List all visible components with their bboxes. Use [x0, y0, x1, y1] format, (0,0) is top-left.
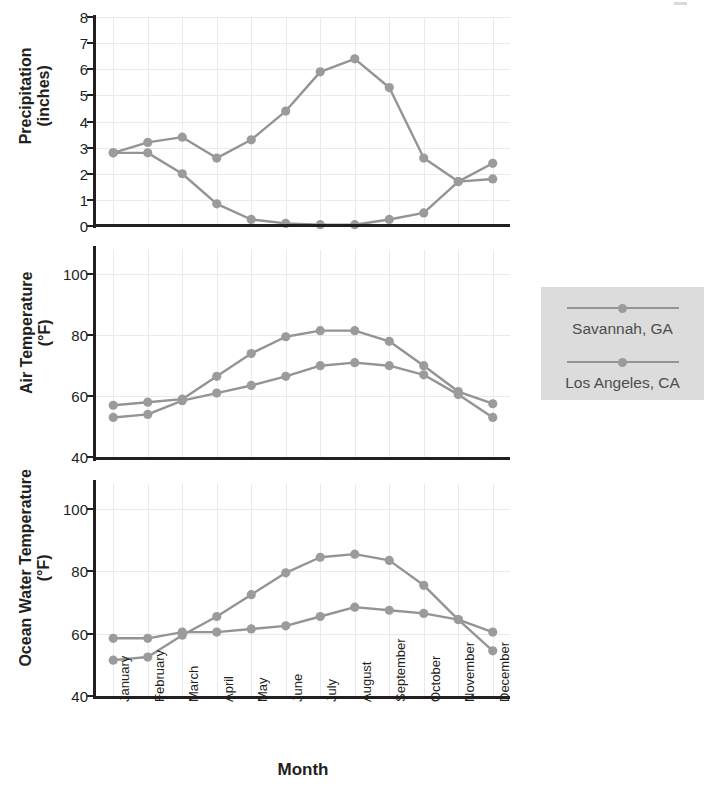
- y-tick-mark: [87, 147, 93, 149]
- data-point-marker: [350, 358, 359, 367]
- precipitation-series-layer: [96, 17, 510, 226]
- data-point-marker: [143, 634, 152, 643]
- y-tick-mark: [87, 633, 93, 635]
- data-point-marker: [454, 390, 463, 399]
- data-point-marker: [385, 556, 394, 565]
- y-tick-mark: [87, 199, 93, 201]
- series-line-savannah: [113, 331, 493, 406]
- series-line-los-angeles: [113, 607, 493, 638]
- y-tick-label: 80: [71, 564, 88, 579]
- data-point-marker: [178, 627, 187, 636]
- data-point-marker: [488, 646, 497, 655]
- data-point-marker: [419, 609, 428, 618]
- data-point-marker: [143, 148, 152, 157]
- y-tick-mark: [87, 334, 93, 336]
- data-point-marker: [419, 208, 428, 217]
- air-temperature-series-layer: [96, 250, 510, 457]
- data-point-marker: [212, 372, 221, 381]
- y-tick-mark: [87, 273, 93, 275]
- chart-canvas: Precipitation (inches) 012345678 Air Tem…: [0, 0, 713, 789]
- data-point-marker: [212, 627, 221, 636]
- data-point-marker: [454, 177, 463, 186]
- series-line-savannah: [113, 554, 493, 660]
- legend-marker-savannah-icon: [541, 301, 704, 315]
- y-tick-label: 80: [71, 328, 88, 343]
- data-point-marker: [385, 606, 394, 615]
- y-tick-mark: [87, 16, 93, 18]
- y-tick-label: 40: [71, 450, 88, 465]
- data-point-marker: [281, 332, 290, 341]
- data-point-marker: [212, 153, 221, 162]
- x-tick-label-november: November: [463, 642, 476, 702]
- y-tick-label: 60: [71, 389, 88, 404]
- ocean-water-temperature-axis-title-line1: Ocean Water Temperature: [17, 413, 35, 723]
- air-temperature-axis-title: Air Temperature (°F): [18, 225, 54, 440]
- precipitation-plot-area: [96, 17, 510, 226]
- ocean-water-temperature-y-axis-line: [93, 480, 96, 699]
- precipitation-axis-title: Precipitation (inches): [17, 6, 53, 186]
- legend-entry-savannah[interactable]: Savannah, GA: [541, 301, 704, 337]
- x-tick-label-april: April: [222, 676, 235, 702]
- data-point-marker: [385, 337, 394, 346]
- data-point-marker: [281, 568, 290, 577]
- data-point-marker: [109, 148, 118, 157]
- air-temperature-plot-area: [96, 250, 510, 457]
- x-tick-label-january: January: [118, 656, 131, 702]
- data-point-marker: [385, 361, 394, 370]
- data-point-marker: [143, 410, 152, 419]
- data-point-marker: [143, 398, 152, 407]
- air-temperature-axis-title-line1: Air Temperature: [18, 225, 36, 440]
- data-point-marker: [247, 349, 256, 358]
- y-tick-label: 100: [63, 501, 88, 516]
- data-point-marker: [385, 83, 394, 92]
- legend-label-savannah: Savannah, GA: [541, 320, 704, 337]
- data-point-marker: [419, 361, 428, 370]
- legend-marker-los-angeles-icon: [541, 355, 704, 369]
- cropped-artifact: [674, 2, 687, 5]
- data-point-marker: [281, 372, 290, 381]
- data-point-marker: [350, 326, 359, 335]
- y-tick-mark: [87, 94, 93, 96]
- y-tick-mark: [87, 68, 93, 70]
- x-axis-title: Month: [96, 760, 510, 780]
- data-point-marker: [109, 413, 118, 422]
- data-point-marker: [316, 67, 325, 76]
- x-tick-label-february: February: [153, 650, 166, 702]
- data-point-marker: [109, 634, 118, 643]
- data-point-marker: [212, 199, 221, 208]
- data-point-marker: [178, 133, 187, 142]
- x-tick-label-december: December: [498, 642, 511, 702]
- data-point-marker: [488, 413, 497, 422]
- data-point-marker: [419, 370, 428, 379]
- y-tick-mark: [87, 570, 93, 572]
- data-point-marker: [350, 603, 359, 612]
- data-point-marker: [316, 326, 325, 335]
- legend-entry-los-angeles[interactable]: Los Angeles, CA: [541, 355, 704, 391]
- data-point-marker: [488, 174, 497, 183]
- data-point-marker: [247, 215, 256, 224]
- x-tick-label-july: July: [325, 679, 338, 702]
- data-point-marker: [350, 550, 359, 559]
- air-temperature-y-axis-line: [93, 246, 96, 461]
- x-tick-label-march: March: [187, 666, 200, 702]
- x-tick-label-may: May: [256, 677, 269, 702]
- y-tick-mark: [87, 395, 93, 397]
- ocean-water-temperature-axis-title: Ocean Water Temperature (°F): [17, 413, 53, 723]
- data-point-marker: [247, 624, 256, 633]
- data-point-marker: [247, 135, 256, 144]
- panel-precipitation: Precipitation (inches) 012345678: [0, 0, 540, 236]
- y-tick-label: 100: [63, 267, 88, 282]
- data-point-marker: [350, 54, 359, 63]
- panel-ocean-water-temperature: Ocean Water Temperature (°F) 406080100: [0, 470, 540, 710]
- y-tick-mark: [87, 225, 93, 227]
- data-point-marker: [419, 581, 428, 590]
- series-line-los-angeles: [113, 363, 493, 418]
- series-line-los-angeles: [113, 153, 493, 225]
- data-point-marker: [281, 106, 290, 115]
- data-point-marker: [143, 652, 152, 661]
- data-point-marker: [454, 615, 463, 624]
- y-tick-mark: [87, 695, 93, 697]
- precipitation-y-axis-line: [93, 15, 96, 228]
- air-temperature-x-axis-line: [93, 457, 510, 460]
- air-temperature-axis-title-line2: (°F): [36, 225, 54, 440]
